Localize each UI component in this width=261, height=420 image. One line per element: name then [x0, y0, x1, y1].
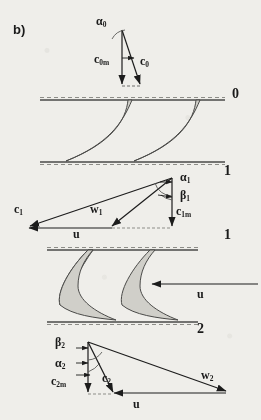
label-c-1m: c1m: [176, 204, 191, 219]
rotor-cascade: [47, 248, 258, 325]
label-alpha-2: α2: [55, 356, 65, 371]
rotor-blade: [121, 250, 178, 320]
label-w-1: w1: [90, 202, 102, 217]
stator-blade: [66, 100, 132, 161]
label-w-2: w2: [201, 368, 213, 383]
label-c-1-sub: 1: [19, 208, 23, 217]
label-c-0-sub: 0: [145, 60, 149, 69]
label-w-2-base: w: [201, 368, 210, 382]
station-label-2: 2: [197, 321, 204, 337]
label-u-blade-speed: u: [197, 287, 204, 302]
label-u-1: u: [73, 227, 80, 242]
label-alpha-2-sub: 2: [62, 362, 66, 371]
stator-blade: [134, 100, 200, 161]
station-label-1-lower: 1: [224, 227, 231, 243]
label-beta-1: β1: [180, 188, 190, 203]
label-u-2-base: u: [133, 397, 140, 411]
label-c-1m-sub: 1m: [181, 210, 191, 219]
figure-canvas: b) 0 1 1 2 α0 c0m c0 α1 β1 c1 w1 c1m u u…: [0, 0, 261, 420]
rotor-blade: [59, 250, 116, 320]
label-u-2: u: [133, 397, 140, 412]
station-label-0: 0: [232, 86, 239, 102]
station-label-1-upper: 1: [224, 163, 231, 179]
inlet-velocity-triangle-0: [112, 30, 140, 86]
label-alpha-1: α1: [180, 170, 190, 185]
label-c-2-sub: 2: [107, 377, 111, 386]
angle-arc-alpha2: [88, 363, 100, 372]
label-alpha-1-sub: 1: [187, 176, 191, 185]
label-alpha-0: α0: [96, 14, 106, 29]
label-c-2m-sub: 2m: [56, 380, 66, 389]
label-c-0: c0: [140, 54, 149, 69]
label-w-1-sub: 1: [99, 208, 103, 217]
label-c-2: c2: [102, 371, 111, 386]
stator-cascade: [40, 98, 225, 165]
panel-label: b): [13, 22, 25, 37]
label-w-2-sub: 2: [210, 374, 214, 383]
label-alpha-1-base: α: [180, 170, 187, 184]
label-beta-2-sub: 2: [61, 341, 65, 350]
vector-w1: [112, 178, 172, 226]
label-c-2m: c2m: [51, 374, 66, 389]
label-alpha-0-base: α: [96, 14, 103, 28]
label-beta-1-sub: 1: [186, 194, 190, 203]
label-u-blade-speed-base: u: [197, 287, 204, 301]
vector-c0: [122, 30, 140, 84]
label-u-1-base: u: [73, 227, 80, 241]
label-alpha-0-sub: 0: [103, 20, 107, 29]
label-c-0m: c0m: [94, 52, 109, 67]
label-alpha-2-base: α: [55, 356, 62, 370]
label-c-0m-sub: 0m: [99, 58, 109, 67]
label-c-1: c1: [14, 202, 23, 217]
label-w-1-base: w: [90, 202, 99, 216]
label-beta-2: β2: [55, 335, 65, 350]
diagram-svg: [0, 0, 261, 420]
